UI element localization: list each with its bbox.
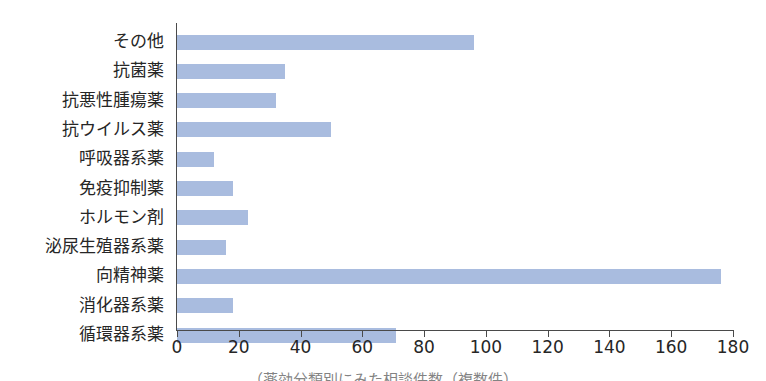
x-axis-tick-label: 120 (531, 337, 563, 357)
x-axis-tick-label: 60 (352, 337, 374, 357)
category-label: 呼吸器系薬 (0, 149, 164, 168)
x-axis-tick-label: 0 (172, 337, 183, 357)
x-axis-tick-label: 160 (655, 337, 687, 357)
category-label: 抗ウイルス薬 (0, 120, 164, 139)
x-axis-tick-label: 140 (593, 337, 625, 357)
bar (177, 269, 721, 284)
category-label: 抗悪性腫瘍薬 (0, 91, 164, 110)
figure-caption: （薬効分類別にみた相談件数（複数件） (0, 371, 766, 381)
category-axis-labels: その他抗菌薬抗悪性腫瘍薬抗ウイルス薬呼吸器系薬免疫抑制薬ホルモン剤泌尿生殖器系薬… (0, 24, 170, 330)
plot-area (177, 24, 733, 330)
bar (177, 298, 233, 313)
category-label: 循環器系薬 (0, 325, 164, 344)
category-label: 免疫抑制薬 (0, 179, 164, 198)
bar (177, 181, 233, 196)
bar (177, 210, 248, 225)
bar (177, 122, 331, 137)
bar-chart: その他抗菌薬抗悪性腫瘍薬抗ウイルス薬呼吸器系薬免疫抑制薬ホルモン剤泌尿生殖器系薬… (0, 0, 766, 381)
y-axis-line (176, 23, 177, 331)
category-label: 抗菌薬 (0, 61, 164, 80)
category-label: その他 (0, 32, 164, 51)
category-label: 泌尿生殖器系薬 (0, 237, 164, 256)
bar (177, 152, 214, 167)
bar (177, 93, 276, 108)
category-label: ホルモン剤 (0, 208, 164, 227)
x-axis-tick-label: 40 (290, 337, 312, 357)
x-axis-line (176, 330, 734, 331)
category-label: 消化器系薬 (0, 296, 164, 315)
bar (177, 64, 285, 79)
category-label: 向精神薬 (0, 266, 164, 285)
bar (177, 35, 474, 50)
x-axis-tick-label: 100 (470, 337, 502, 357)
x-axis-tick-label: 80 (413, 337, 435, 357)
x-axis-tick-label: 180 (717, 337, 749, 357)
x-axis-tick-label: 20 (228, 337, 250, 357)
bar (177, 240, 226, 255)
